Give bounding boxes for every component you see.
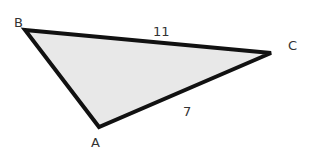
vertex-label-c: C [288,38,297,53]
triangle-diagram: B C A 11 7 [0,0,315,151]
vertex-label-b: B [14,15,23,30]
vertex-label-a: A [91,135,100,150]
side-label-ac: 7 [183,104,191,119]
side-label-bc: 11 [153,24,170,39]
triangle-abc [25,30,271,127]
